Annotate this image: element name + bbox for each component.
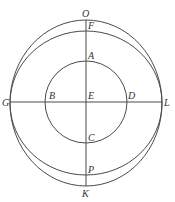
label-F: F: [87, 20, 95, 31]
geometry-diagram: O F A B E D G L C P K: [0, 0, 175, 202]
label-C: C: [88, 132, 95, 143]
label-G: G: [2, 97, 9, 108]
label-L: L: [163, 97, 170, 108]
label-O: O: [82, 8, 89, 19]
label-K: K: [81, 188, 90, 199]
label-A: A: [87, 50, 95, 61]
label-B: B: [49, 90, 55, 101]
label-P: P: [87, 164, 94, 175]
label-E: E: [87, 90, 94, 101]
label-D: D: [127, 90, 136, 101]
